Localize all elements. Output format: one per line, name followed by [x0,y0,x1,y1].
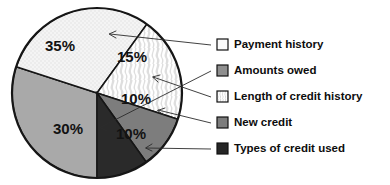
credit-score-factors-chart: 35% 15% 10% 10% 30% [0,0,390,185]
legend-item-amounts-owed[interactable]: Amounts owed [217,64,316,76]
slice-value-new-credit: 10% [121,90,151,107]
legend-swatch-amounts-owed-icon [217,65,228,76]
legend: Payment history Amounts owed Length of c… [217,38,363,154]
legend-item-types-of-credit-used[interactable]: Types of credit used [217,142,345,154]
slice-value-payment-history: 35% [45,37,75,54]
legend-swatch-payment-history-icon [217,39,228,50]
legend-swatch-length-of-credit-history-icon [217,91,228,102]
legend-item-new-credit[interactable]: New credit [217,116,292,128]
pie-chart-figure: 35% 15% 10% 10% 30% [0,0,390,185]
legend-item-payment-history[interactable]: Payment history [217,38,324,50]
slice-value-types-of-credit-used: 10% [116,125,146,142]
slice-value-amounts-owed: 30% [53,120,83,137]
legend-swatch-new-credit-icon [217,117,228,128]
legend-swatch-types-of-credit-used-icon [217,143,228,154]
slice-value-length-of-credit-history: 15% [117,48,147,65]
legend-item-length-of-credit-history[interactable]: Length of credit history [217,90,363,102]
legend-label-new-credit: New credit [234,116,292,128]
legend-label-payment-history: Payment history [234,38,324,50]
legend-label-types-of-credit-used: Types of credit used [234,142,345,154]
legend-label-amounts-owed: Amounts owed [234,64,316,76]
legend-label-length-of-credit-history: Length of credit history [234,90,363,102]
